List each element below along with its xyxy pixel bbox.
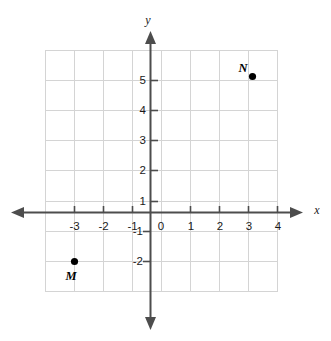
data-point-n: N bbox=[237, 61, 256, 80]
y-tick-label-3: 3 bbox=[140, 134, 146, 146]
x-tick-label-4: 4 bbox=[275, 220, 282, 232]
y-axis bbox=[145, 31, 156, 330]
coordinate-plane-chart: -3 -2 -1 1 2 3 4 0 5 4 3 2 1 -1 -2 y x M… bbox=[0, 0, 331, 341]
y-tick-label-neg2: -2 bbox=[133, 255, 143, 267]
data-point-m-label: M bbox=[64, 269, 77, 283]
x-tick-label-neg3: -3 bbox=[69, 220, 79, 232]
y-tick-label-2: 2 bbox=[140, 164, 146, 176]
y-axis-label: y bbox=[144, 13, 151, 27]
origin-label: 0 bbox=[158, 220, 164, 232]
x-tick-label-2: 2 bbox=[217, 220, 223, 232]
x-axis-label: x bbox=[313, 203, 320, 217]
x-tick-label-neg2: -2 bbox=[98, 220, 108, 232]
x-tick-label-3: 3 bbox=[246, 220, 252, 232]
y-tick-label-5: 5 bbox=[140, 74, 146, 86]
y-tick-label-1: 1 bbox=[140, 195, 146, 207]
y-tick-label-4: 4 bbox=[140, 104, 147, 116]
y-tick-label-neg1: -1 bbox=[133, 225, 143, 237]
x-axis bbox=[11, 207, 303, 218]
data-point-n-label: N bbox=[237, 61, 248, 75]
x-tick-label-1: 1 bbox=[188, 220, 194, 232]
